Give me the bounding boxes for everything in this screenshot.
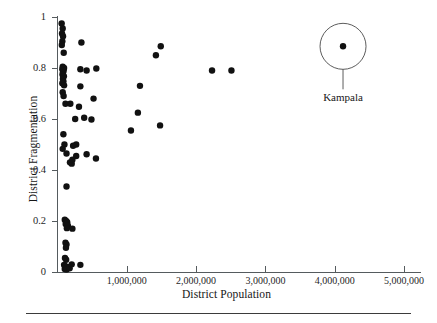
data-point (158, 43, 164, 49)
data-point (88, 116, 94, 122)
plot-canvas (0, 0, 437, 323)
data-point (72, 116, 78, 122)
data-point (60, 93, 66, 99)
data-point (60, 131, 66, 137)
data-point (61, 50, 67, 56)
data-point (128, 127, 134, 133)
data-point (340, 43, 346, 49)
data-points-group (58, 20, 346, 272)
data-point (81, 115, 87, 121)
data-point (209, 67, 215, 73)
data-point (83, 67, 89, 73)
data-point (67, 101, 73, 107)
data-point (69, 157, 75, 163)
data-point (77, 66, 83, 72)
data-point (83, 151, 89, 157)
x-tick-label: 3,000,000 (245, 276, 285, 286)
x-tick-label: 1,000,000 (107, 276, 147, 286)
data-point (93, 155, 99, 161)
data-point (64, 225, 70, 231)
data-point (135, 109, 141, 115)
scatter-plot-figure: 1,000,0002,000,0003,000,0004,000,0005,00… (0, 0, 437, 323)
y-tick-label: 0 (10, 267, 46, 278)
data-point (69, 225, 75, 231)
x-ticks-group (128, 266, 405, 272)
data-point (63, 183, 69, 189)
x-tick-label: 4,000,000 (315, 276, 355, 286)
data-point (76, 104, 82, 110)
data-point (93, 65, 99, 71)
data-point (69, 261, 75, 267)
data-point (70, 143, 76, 149)
kampala-label: Kampala (314, 91, 372, 103)
data-point (59, 42, 65, 48)
data-point (77, 262, 83, 268)
x-axis-title-text: District Population (182, 288, 271, 300)
data-point (90, 95, 96, 101)
data-point (137, 83, 143, 89)
data-point (157, 122, 163, 128)
y-tick-label: 1 (10, 12, 46, 23)
data-point (61, 82, 67, 88)
y-axis-title: District Fragmentation (27, 49, 39, 249)
x-tick-label: 2,000,000 (176, 276, 216, 286)
data-point (78, 39, 84, 45)
axes-group (57, 16, 421, 273)
data-point (77, 83, 83, 89)
kampala-callout (320, 23, 366, 89)
x-axis-title: District Population (0, 288, 437, 300)
data-point (153, 52, 159, 58)
data-point (63, 245, 69, 251)
x-tick-label: 5,000,000 (384, 276, 424, 286)
data-point (63, 150, 69, 156)
data-point (228, 67, 234, 73)
